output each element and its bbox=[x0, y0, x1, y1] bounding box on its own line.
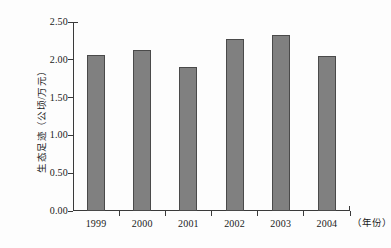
x-tick-mark bbox=[350, 211, 351, 216]
x-tick-label: 2004 bbox=[303, 218, 351, 229]
bar bbox=[318, 56, 336, 211]
bar bbox=[133, 50, 151, 211]
y-tick-label: 2.00 bbox=[34, 55, 68, 65]
bar bbox=[179, 67, 197, 211]
y-tick-label: 0.50 bbox=[34, 168, 68, 178]
y-tick-label: 1.00 bbox=[34, 130, 68, 140]
bar bbox=[226, 39, 244, 211]
y-tick-label: 2.50 bbox=[34, 17, 68, 27]
x-tick-label: 2000 bbox=[118, 218, 166, 229]
bar-chart: 生态足迹（公顷/万元） 2.50 2.00 1.50 1.00 0.50 0.0… bbox=[0, 0, 391, 248]
y-tick-label: 1.50 bbox=[34, 93, 68, 103]
x-tick-mark bbox=[119, 211, 120, 216]
x-tick-label: 2001 bbox=[164, 218, 212, 229]
x-axis-title: （年份） bbox=[352, 218, 391, 229]
bar bbox=[272, 35, 290, 211]
x-tick-label: 1999 bbox=[72, 218, 120, 229]
x-tick-mark bbox=[211, 211, 212, 216]
x-tick-mark bbox=[257, 211, 258, 216]
y-tick-label: 0.00 bbox=[34, 206, 68, 216]
x-tick-mark bbox=[303, 211, 304, 216]
x-tick-label: 2003 bbox=[257, 218, 305, 229]
bar bbox=[87, 55, 105, 211]
x-tick-mark bbox=[165, 211, 166, 216]
bar-series bbox=[73, 22, 350, 211]
x-tick-label: 2002 bbox=[211, 218, 259, 229]
y-axis-tick-labels: 2.50 2.00 1.50 1.00 0.50 0.00 bbox=[34, 0, 68, 248]
